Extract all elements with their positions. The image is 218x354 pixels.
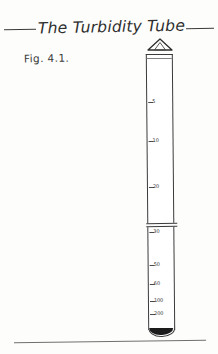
tube-rounded-base (148, 323, 175, 337)
scale-tick-label: 10 (153, 138, 159, 143)
footer-rule (14, 340, 206, 343)
scale-tick-label: 5 (152, 99, 155, 104)
tube-joint-band (146, 223, 177, 227)
scale-tick-label: 50 (154, 262, 160, 267)
scale-tick-label: 200 (154, 311, 163, 316)
figure-page: The Turbidity Tube Fig. 4.1. 51020305060… (0, 0, 218, 354)
title-rule-left (4, 28, 36, 30)
tube-sediment-fill (149, 328, 173, 335)
scale-tick-label: 20 (153, 184, 159, 189)
figure-title-row: The Turbidity Tube (0, 14, 218, 40)
scale-tick-label: 60 (154, 281, 160, 286)
scale-tick-label: 30 (153, 229, 159, 234)
page-title: The Turbidity Tube (38, 17, 185, 38)
figure-caption: Fig. 4.1. (24, 52, 69, 65)
turbidity-tube-diagram: 51020305060100200 (136, 38, 190, 338)
triangle-cone-icon (147, 38, 173, 51)
tube-rim (147, 57, 172, 58)
scale-tick-label: 100 (154, 298, 163, 303)
tube-body: 51020305060100200 (146, 54, 175, 330)
title-rule-right (186, 27, 214, 28)
